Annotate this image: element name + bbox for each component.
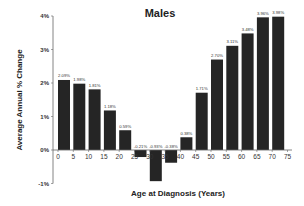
data-label: -0.21% <box>134 144 148 149</box>
data-label: 1.81% <box>89 83 101 88</box>
data-label: 3.11% <box>227 39 239 44</box>
data-label: 0.59% <box>119 124 131 129</box>
bar <box>119 130 131 150</box>
data-label: 1.18% <box>104 104 116 109</box>
y-tick-label: 2% <box>40 80 49 86</box>
y-tick-label: 3% <box>40 47 49 53</box>
data-label: 3.96% <box>257 11 269 16</box>
x-tick-label: 0 <box>56 153 60 160</box>
x-tick-label: 75 <box>284 153 292 160</box>
y-axis-label: Average Annual % Change <box>15 49 24 151</box>
bar <box>89 89 101 150</box>
bar <box>180 137 192 150</box>
bar <box>73 84 85 150</box>
data-label: 1.98% <box>73 77 85 82</box>
y-tick-label: -1% <box>38 181 49 187</box>
bar <box>211 60 223 150</box>
bar <box>272 17 284 150</box>
data-label: 3.48% <box>242 27 254 32</box>
bar <box>226 46 238 150</box>
x-tick-label: 10 <box>85 153 93 160</box>
bar <box>58 80 70 150</box>
x-tick-label: 30 <box>146 153 154 160</box>
x-tick-label: 65 <box>253 153 261 160</box>
x-tick-label: 5 <box>71 153 75 160</box>
y-tick-label: 4% <box>40 13 49 19</box>
y-tick-label: 0% <box>40 147 49 153</box>
bar-chart: Males Average Annual % Change Age at Dia… <box>0 0 304 206</box>
x-tick-label: 55 <box>223 153 231 160</box>
bar <box>257 17 269 150</box>
data-label: -0.38% <box>164 144 178 149</box>
chart-title: Males <box>145 7 176 19</box>
x-tick-label: 70 <box>269 153 277 160</box>
x-tick-label: 25 <box>131 153 139 160</box>
x-tick-label: 50 <box>207 153 215 160</box>
x-tick-label: 40 <box>177 153 185 160</box>
y-axis: 4%3%2%1%0%-1% <box>38 13 53 187</box>
data-label: 1.71% <box>196 86 208 91</box>
bar <box>196 93 208 150</box>
x-tick-label: 15 <box>100 153 108 160</box>
data-label: 2.09% <box>58 73 70 78</box>
x-tick-label: 60 <box>238 153 246 160</box>
x-tick-label: 35 <box>161 153 169 160</box>
y-tick-label: 1% <box>40 114 49 120</box>
bar <box>242 33 254 150</box>
data-label: 2.70% <box>211 53 223 58</box>
data-label: -0.93% <box>149 144 163 149</box>
bar <box>104 110 116 150</box>
data-label: 3.98% <box>272 10 284 15</box>
x-tick-label: 45 <box>192 153 200 160</box>
x-axis-label: Age at Diagnosis (Years) <box>131 189 225 198</box>
x-tick-label: 20 <box>116 153 124 160</box>
data-label: 0.38% <box>180 131 192 136</box>
